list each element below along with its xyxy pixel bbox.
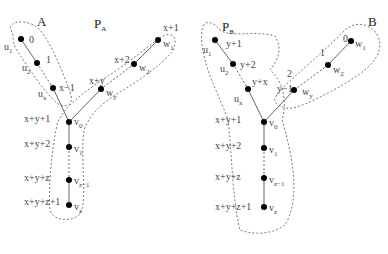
node-label: v1 <box>74 143 83 157</box>
tree-decomposition-diagram: u10u21uxx−1w1x+1w2x+2wyx+yv0x+y+1v1x+y+2… <box>0 0 388 254</box>
node-label: w2 <box>333 64 344 78</box>
weight-label: x+y+z <box>24 172 50 183</box>
node-label: vz−1 <box>269 174 285 188</box>
node-v0 <box>261 119 267 125</box>
node-ux <box>50 85 56 91</box>
node-wy <box>98 86 104 92</box>
weight-label: y+1 <box>226 38 242 49</box>
node-label: u2 <box>220 63 229 77</box>
weight-label: x+y+1 <box>24 113 50 124</box>
weight-label: x+1 <box>163 22 179 33</box>
weight-label: 2 <box>287 68 292 79</box>
node-vz1 <box>66 177 72 183</box>
node-label: vz−1 <box>74 175 90 189</box>
node-label: ux <box>38 88 47 102</box>
node-w1 <box>348 38 354 44</box>
node-u1 <box>212 37 218 43</box>
node-w2 <box>325 62 331 68</box>
node-label: w1 <box>163 38 174 52</box>
left-tree: u10u21uxx−1w1x+1w2x+2wyx+yv0x+y+1v1x+y+2… <box>4 14 179 215</box>
weight-label: 1 <box>46 54 51 65</box>
node-label: vz <box>269 202 277 216</box>
node-v1 <box>261 145 267 151</box>
weight-label: y−1 <box>277 83 293 94</box>
region-label-pb: PB <box>222 19 234 36</box>
weight-label: y+2 <box>240 59 256 70</box>
region-label-a: A <box>37 14 47 29</box>
node-vz <box>66 202 72 208</box>
weight-label: x+y+z+1 <box>215 201 251 212</box>
node-u2 <box>230 61 236 67</box>
weight-label: x+y+z <box>215 171 241 182</box>
path-edge <box>294 65 328 90</box>
node-u2 <box>34 60 40 66</box>
edge <box>248 89 264 122</box>
weight-label: 0 <box>29 34 34 45</box>
path-edge <box>101 64 134 89</box>
node-vz1 <box>261 175 267 181</box>
node-label: w1 <box>355 38 366 52</box>
right-tree: u1y+1u2y+2uxy+xw10w21wyy−1v0x+y+1v1x+y+2… <box>203 14 377 216</box>
node-label: w2 <box>139 62 150 76</box>
weight-label: x−1 <box>59 82 75 93</box>
node-w2 <box>131 61 137 67</box>
weight-label: x+y+z+1 <box>24 196 60 207</box>
node-u1 <box>18 36 24 42</box>
node-vz <box>261 204 267 210</box>
node-label: ux <box>234 93 243 107</box>
node-label: u2 <box>22 62 31 76</box>
node-w1 <box>155 37 161 43</box>
region-label-pa: PA <box>94 16 106 33</box>
node-label: v0 <box>269 117 278 131</box>
node-ux <box>245 86 251 92</box>
node-label: v1 <box>269 144 278 158</box>
weight-label: x+y+2 <box>24 138 50 149</box>
weight-label: 0 <box>343 33 348 44</box>
weight-label: x+y <box>89 75 105 86</box>
node-v1 <box>66 144 72 150</box>
node-label: v0 <box>74 116 83 130</box>
node-label: wy <box>106 87 117 101</box>
node-label: vz <box>74 201 82 215</box>
weight-label: x+2 <box>114 54 130 65</box>
node-v0 <box>66 119 72 125</box>
node-label: wy <box>302 86 313 100</box>
weight-label: y+x <box>252 76 268 87</box>
region-label-b: B <box>368 14 377 29</box>
edge <box>134 40 158 64</box>
region-left-pa <box>49 34 175 219</box>
weight-label: x+y+1 <box>215 114 241 125</box>
edge <box>328 41 351 65</box>
weight-label: 1 <box>320 47 325 58</box>
node-label: u1 <box>4 41 13 55</box>
path-edge <box>37 63 53 88</box>
weight-label: x+y+2 <box>215 140 241 151</box>
